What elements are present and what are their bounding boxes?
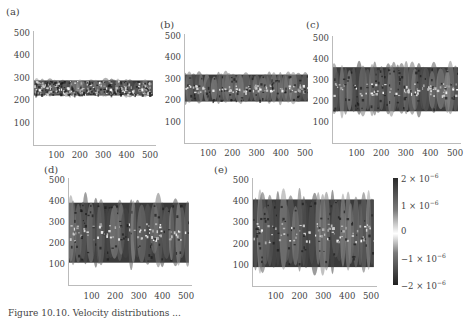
- x-tick-label: 400: [118, 150, 134, 160]
- y-tick-label: 400: [41, 196, 65, 206]
- y-tick-label: 500: [6, 28, 30, 38]
- y-tick-label: 100: [225, 260, 249, 270]
- colorbar: [393, 178, 398, 285]
- x-tick-label: 300: [131, 291, 147, 301]
- x-tick-label: 400: [154, 291, 170, 301]
- y-tick-label: 200: [6, 95, 30, 105]
- x-tick-label: 500: [447, 148, 463, 158]
- x-tick-label: 200: [224, 148, 240, 158]
- panel-label: (b): [160, 19, 174, 30]
- colorbar-tick-label: −2 × 10−6: [401, 279, 446, 291]
- x-tick-label: 100: [48, 150, 64, 160]
- x-tick-label: 300: [248, 148, 264, 158]
- y-tick-label: 400: [225, 196, 249, 206]
- x-tick-label: 200: [291, 291, 307, 301]
- panel-label: (a): [6, 6, 20, 17]
- colorbar-tick-label: 2 × 10−6: [401, 172, 439, 184]
- y-tick-label: 500: [225, 175, 249, 185]
- y-tick-label: 300: [305, 75, 329, 85]
- x-axis: [252, 286, 377, 287]
- x-tick-label: 300: [315, 291, 331, 301]
- colorbar-tick-label: 0: [401, 226, 406, 236]
- y-tick-label: 200: [41, 238, 65, 248]
- panel-label: (d): [44, 164, 58, 175]
- y-tick-label: 300: [6, 73, 30, 83]
- y-tick-label: 100: [157, 117, 181, 127]
- figure-caption: Figure 10.10. Velocity distributions ...: [8, 308, 181, 318]
- panel-label: (c): [306, 19, 319, 30]
- x-tick-label: 400: [339, 291, 355, 301]
- x-tick-label: 200: [373, 148, 389, 158]
- velocity-heatmap: [34, 74, 153, 102]
- x-axis: [68, 285, 192, 286]
- y-tick-label: 500: [157, 31, 181, 41]
- y-tick-label: 100: [305, 117, 329, 127]
- x-tick-label: 500: [142, 150, 158, 160]
- y-tick-label: 300: [157, 74, 181, 84]
- velocity-heatmap: [253, 188, 374, 279]
- colorbar-tick-label: 1 × 10−6: [401, 199, 439, 211]
- velocity-heatmap: [69, 192, 189, 273]
- x-axis: [184, 143, 311, 144]
- x-tick-label: 200: [72, 150, 88, 160]
- x-tick-label: 500: [363, 291, 379, 301]
- y-tick-label: 400: [305, 54, 329, 64]
- x-axis: [332, 143, 461, 144]
- x-tick-label: 100: [83, 291, 99, 301]
- y-tick-label: 400: [6, 50, 30, 60]
- y-tick-label: 300: [225, 217, 249, 227]
- x-tick-label: 300: [398, 148, 414, 158]
- x-tick-label: 100: [200, 148, 216, 158]
- panel-label: (e): [214, 164, 228, 175]
- x-axis: [33, 145, 156, 146]
- y-tick-label: 500: [305, 33, 329, 43]
- y-tick-label: 500: [41, 175, 65, 185]
- velocity-heatmap: [333, 58, 458, 121]
- x-tick-label: 100: [268, 291, 284, 301]
- x-tick-label: 500: [297, 148, 313, 158]
- y-tick-label: 400: [157, 52, 181, 62]
- y-tick-label: 200: [305, 96, 329, 106]
- x-tick-label: 400: [273, 148, 289, 158]
- y-tick-label: 200: [157, 95, 181, 105]
- x-tick-label: 200: [107, 291, 123, 301]
- x-tick-label: 400: [422, 148, 438, 158]
- colorbar-tick-label: −1 × 10−6: [401, 252, 446, 264]
- velocity-heatmap: [185, 67, 308, 109]
- x-tick-label: 500: [178, 291, 194, 301]
- y-tick-label: 100: [41, 259, 65, 269]
- x-tick-label: 300: [95, 150, 111, 160]
- y-tick-label: 300: [41, 217, 65, 227]
- x-tick-label: 100: [348, 148, 364, 158]
- y-tick-label: 100: [6, 118, 30, 128]
- y-tick-label: 200: [225, 239, 249, 249]
